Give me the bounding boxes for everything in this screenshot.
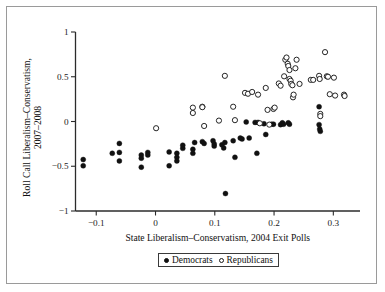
data-point-republican: [265, 107, 270, 112]
y-axis-title-line-2: 2007–2008: [32, 106, 43, 149]
data-point-republican: [232, 118, 237, 123]
data-point-republican: [294, 57, 299, 62]
legend-label-democrats: Democrats: [172, 255, 213, 265]
data-point-democrat: [117, 141, 122, 146]
data-point-republican: [325, 74, 330, 79]
filled-circle-icon: [164, 258, 169, 263]
data-point-republican: [231, 104, 236, 109]
scatter-plot: −1−0.500.51−0.100.10.20.3 State Liberali…: [0, 0, 385, 292]
legend-label-republicans: Republicans: [227, 255, 273, 265]
data-point-democrat: [117, 150, 122, 155]
data-point-republican: [342, 93, 347, 98]
x-tick-label: 0: [153, 218, 158, 228]
data-point-republican: [284, 55, 289, 60]
data-point-democrat: [232, 155, 237, 160]
data-point-republican: [327, 92, 332, 97]
y-tick-label: −0.5: [52, 161, 69, 171]
data-point-democrat: [231, 138, 236, 143]
y-tick-label: −1: [59, 206, 69, 216]
data-point-democrat: [192, 140, 197, 145]
data-point-republican: [267, 122, 272, 127]
data-point-democrat: [139, 156, 144, 161]
data-point-republican: [333, 93, 338, 98]
data-point-democrat: [110, 151, 115, 156]
open-circle-icon: [219, 258, 224, 263]
x-tick-label: 0.3: [328, 218, 340, 228]
data-points-group: [81, 50, 347, 197]
data-point-republican: [317, 76, 322, 81]
data-point-democrat: [190, 151, 195, 156]
y-tick-label: 0: [64, 117, 69, 127]
data-point-republican: [250, 89, 255, 94]
y-tick-label: 1: [64, 27, 69, 37]
data-point-democrat: [145, 153, 150, 158]
data-point-republican: [216, 118, 221, 123]
data-point-democrat: [202, 141, 207, 146]
data-point-republican: [200, 105, 205, 110]
y-axis-title-line-1: Roll Call Liberalism–Conservatism,: [21, 58, 32, 197]
data-point-republican: [154, 126, 159, 131]
data-point-republican: [263, 85, 268, 90]
data-point-republican: [322, 50, 327, 55]
figure-root: −1−0.500.51−0.100.10.20.3 State Liberali…: [0, 0, 385, 292]
data-point-republican: [297, 81, 302, 86]
data-point-republican: [278, 83, 283, 88]
data-point-democrat: [81, 163, 86, 168]
data-point-republican: [257, 121, 262, 126]
data-point-republican: [222, 73, 227, 78]
data-point-democrat: [263, 132, 268, 137]
y-tick-label: 0.5: [57, 72, 69, 82]
data-point-republican: [331, 75, 336, 80]
data-point-democrat: [212, 144, 217, 149]
data-point-democrat: [318, 129, 323, 134]
data-point-democrat: [167, 163, 172, 168]
x-tick-label: 0.1: [209, 218, 221, 228]
data-point-democrat: [221, 145, 226, 150]
data-point-republican: [311, 77, 316, 82]
x-tick-label: 0.2: [268, 218, 280, 228]
x-tick-label: −0.1: [88, 218, 105, 228]
data-point-republican: [202, 123, 207, 128]
data-point-republican: [282, 74, 287, 79]
legend-entry-democrats: Democrats: [164, 255, 213, 265]
data-point-republican: [255, 92, 260, 97]
data-point-democrat: [139, 165, 144, 170]
data-point-republican: [272, 105, 277, 110]
data-point-democrat: [254, 151, 259, 156]
data-point-democrat: [240, 136, 245, 141]
data-point-democrat: [244, 119, 249, 124]
data-point-democrat: [281, 122, 286, 127]
data-point-democrat: [247, 136, 252, 141]
data-point-republican: [291, 92, 296, 97]
data-point-republican: [190, 110, 195, 115]
data-point-republican: [287, 67, 292, 72]
data-point-republican: [290, 83, 295, 88]
data-point-democrat: [287, 122, 292, 127]
data-point-democrat: [317, 122, 322, 127]
data-point-republican: [190, 105, 195, 110]
chart-legend: Democrats Republicans: [158, 253, 279, 267]
x-axis-title: State Liberalism–Conservatism, 2004 Exit…: [125, 232, 310, 243]
data-point-democrat: [223, 191, 228, 196]
data-point-democrat: [81, 157, 86, 162]
data-point-republican: [318, 114, 323, 119]
data-point-democrat: [317, 104, 322, 109]
data-point-democrat: [117, 158, 122, 163]
legend-entry-republicans: Republicans: [219, 255, 273, 265]
data-point-republican: [293, 66, 298, 71]
data-point-democrat: [222, 140, 227, 145]
data-point-democrat: [180, 143, 185, 148]
data-point-democrat: [167, 149, 172, 154]
data-point-democrat: [174, 158, 179, 163]
